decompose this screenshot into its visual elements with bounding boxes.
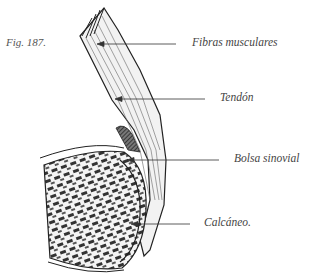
- label-calcaneo: Calcáneo.: [204, 216, 251, 228]
- label-bolsa-sinovial: Bolsa sinovial: [234, 152, 300, 164]
- label-tendon: Tendón: [220, 91, 253, 103]
- calcaneus-bone: [40, 146, 146, 272]
- label-fibras-musculares: Fibras musculares: [192, 36, 278, 48]
